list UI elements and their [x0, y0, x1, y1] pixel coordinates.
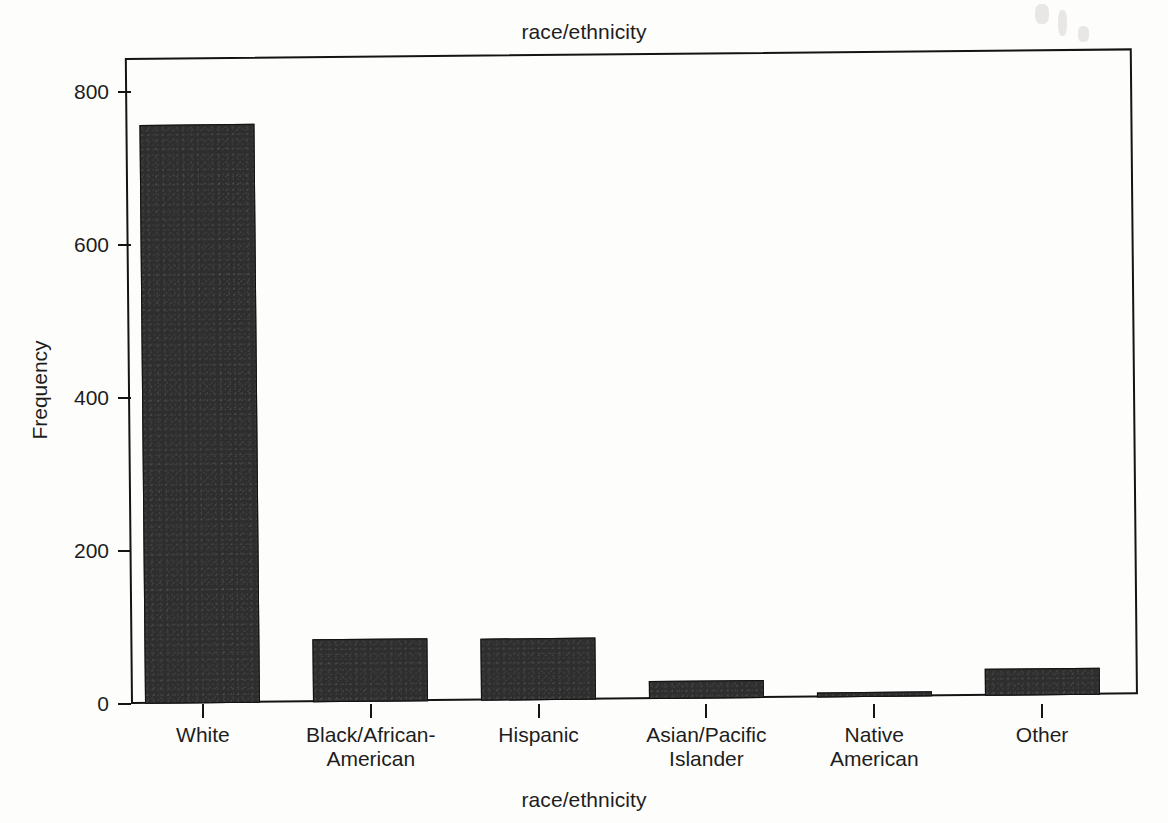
x-tick-mark	[1041, 704, 1043, 718]
x-tick-mark	[705, 704, 707, 718]
x-axis-label: race/ethnicity	[0, 788, 1168, 812]
bar-black-african-american[interactable]	[313, 638, 429, 703]
y-tick-label: 0	[19, 693, 109, 714]
x-tick-label-line: American	[271, 747, 471, 771]
x-tick-mark	[370, 704, 372, 718]
y-tick-mark	[118, 703, 131, 705]
page-background: race/ethnicity Frequency 0200400600800 W…	[0, 0, 1168, 823]
bar-hispanic[interactable]	[480, 638, 596, 701]
x-tick-label-line: American	[774, 747, 974, 771]
x-tick-label: Other	[942, 723, 1142, 747]
y-tick-label: 200	[19, 540, 109, 561]
x-tick-mark	[538, 704, 540, 718]
bar-asian-pacific-islander[interactable]	[649, 680, 764, 699]
y-tick-label: 800	[19, 81, 109, 102]
bar-series	[125, 48, 1138, 704]
x-tick-mark	[202, 704, 204, 718]
bar-other[interactable]	[984, 668, 1099, 696]
y-axis: 0200400600800	[0, 58, 131, 704]
y-tick-label: 400	[19, 387, 109, 408]
bar-native-american[interactable]	[817, 692, 932, 698]
chart-title: race/ethnicity	[0, 20, 1168, 44]
plot-area	[125, 48, 1138, 704]
x-tick-mark	[873, 704, 875, 718]
y-tick-label: 600	[19, 234, 109, 255]
bar-white[interactable]	[140, 123, 261, 704]
x-tick-label-line: Other	[942, 723, 1142, 747]
bar-chart-figure: race/ethnicity Frequency 0200400600800 W…	[0, 0, 1168, 823]
